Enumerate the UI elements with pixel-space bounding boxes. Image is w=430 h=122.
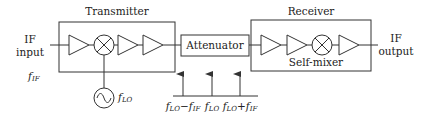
- spectrum-tone-label-2: fLO: [204, 100, 220, 113]
- rx-amplifier-2-icon: [287, 35, 307, 55]
- if-output-label-2: output: [378, 45, 414, 57]
- if-output-label-1: IF: [390, 32, 401, 44]
- rx-mixer-icon: [312, 35, 332, 55]
- rx-amplifier-3-icon: [339, 35, 359, 55]
- transmitter-title: Transmitter: [85, 5, 149, 17]
- f-lo-label: fLO: [117, 91, 133, 104]
- if-output: IF output: [378, 32, 414, 57]
- spectrum-tone-label-3: fLO+fIF: [222, 100, 259, 113]
- sine-source-icon: [94, 88, 114, 108]
- if-input-label-1: IF: [24, 33, 35, 45]
- local-oscillator: fLO: [94, 55, 133, 108]
- attenuator-block: Attenuator: [181, 35, 249, 56]
- spectrum-tone-label-1: fLO−fIF: [165, 100, 202, 113]
- block-diagram: Transmitter IF input fIF fLO: [0, 0, 430, 122]
- rx-amplifier-1-icon: [261, 35, 281, 55]
- tx-amplifier-3-icon: [143, 35, 163, 55]
- tx-amplifier-2-icon: [118, 35, 138, 55]
- if-input-label-2: input: [16, 46, 45, 58]
- self-mixer-label: Self-mixer: [289, 56, 344, 68]
- if-input: IF input fIF: [16, 33, 45, 83]
- tx-mixer-icon: [94, 35, 114, 55]
- receiver-block: Receiver Self-mixer: [251, 5, 371, 71]
- f-if-label: fIF: [27, 70, 41, 83]
- attenuator-label: Attenuator: [185, 39, 244, 51]
- tx-amplifier-1-icon: [69, 35, 89, 55]
- receiver-title: Receiver: [288, 5, 336, 17]
- spectrum: fLO−fIFfLOfLO+fIF: [165, 74, 259, 113]
